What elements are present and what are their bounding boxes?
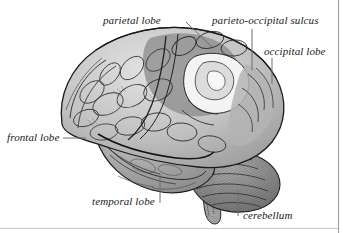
leader-lines bbox=[0, 0, 343, 233]
frame-right-rule bbox=[338, 0, 339, 233]
label-frontal-lobe: frontal lobe bbox=[7, 131, 59, 143]
label-occipital-lobe: occipital lobe bbox=[264, 45, 326, 57]
leader-parietal-lobe bbox=[186, 22, 212, 47]
label-parieto-occipital-sulcus: parieto-occipital sulcus bbox=[212, 14, 319, 26]
label-parietal-lobe: parietal lobe bbox=[103, 14, 161, 26]
label-cerebellum: cerebellum bbox=[243, 209, 292, 221]
label-temporal-lobe: temporal lobe bbox=[92, 195, 155, 207]
frame-bottom-rule bbox=[0, 228, 338, 229]
brain-anatomy-figure: parietal lobe parieto-occipital sulcus o… bbox=[0, 0, 343, 233]
